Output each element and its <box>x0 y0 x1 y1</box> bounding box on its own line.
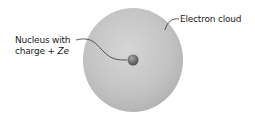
nucleus-label: Nucleus with charge + Ze <box>15 35 70 57</box>
charge-variable: Ze <box>57 46 68 56</box>
nucleus-label-line2: charge + Ze <box>15 46 70 57</box>
nucleus-label-line1: Nucleus with <box>15 35 70 46</box>
charge-prefix: charge + <box>15 46 57 56</box>
nucleus <box>128 55 139 66</box>
electron-cloud-label: Electron cloud <box>180 14 241 25</box>
